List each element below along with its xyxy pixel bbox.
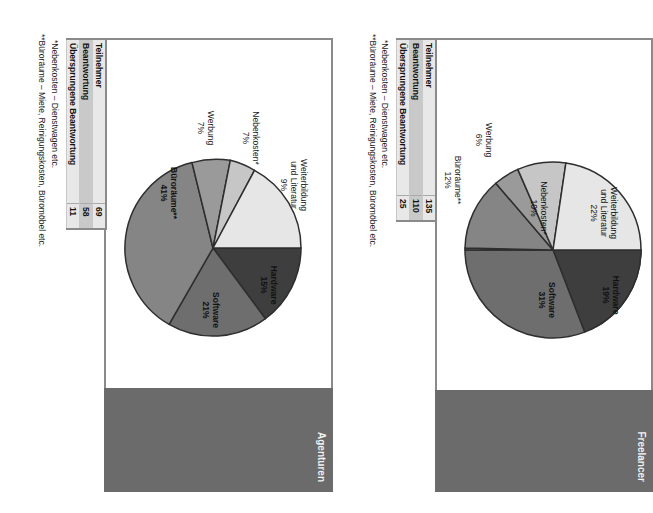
label-hardware: Hardware 19% bbox=[601, 270, 621, 320]
label-nebenkosten: Nebenkosten* 7% bbox=[241, 108, 261, 168]
label-nebenkosten: Nebenkosten* 10% bbox=[529, 178, 549, 238]
label-werbung: Werbung 7% bbox=[196, 108, 216, 148]
table-row: Übersprungene Beantwortung 25 bbox=[397, 40, 410, 220]
freelancer-footnote-1: *Nebenkosten – Dienstwagen etc. bbox=[380, 40, 390, 168]
stat-value: 11 bbox=[67, 204, 80, 229]
agenturen-footnote-1: *Nebenkosten – Dienstwagen etc. bbox=[50, 40, 60, 168]
stat-value: 25 bbox=[397, 196, 410, 221]
stat-value: 69 bbox=[93, 204, 106, 229]
table-row: Teilnehmer 135 bbox=[423, 40, 436, 220]
stat-value: 110 bbox=[410, 196, 423, 221]
table-row: Beantwortung 58 bbox=[80, 40, 93, 228]
label-werbung: Werbung 6% bbox=[474, 120, 494, 160]
label-software: Software 31% bbox=[537, 275, 557, 325]
stat-label: Übersprungene Beantwortung bbox=[397, 40, 410, 196]
agenturen-footnote-2: **Büroräume – Miete, Reinigungskosten, B… bbox=[37, 34, 47, 247]
table-row: Beantwortung 110 bbox=[410, 40, 423, 220]
freelancer-stats-table: Teilnehmer 135 Beantwortung 110 Überspru… bbox=[396, 38, 437, 222]
stat-label: Teilnehmer bbox=[93, 40, 106, 204]
label-weiterbildung: Weiterbildung und Literatur 9% bbox=[279, 150, 309, 220]
stat-value: 135 bbox=[423, 196, 436, 221]
stat-label: Teilnehmer bbox=[423, 40, 436, 196]
stat-value: 58 bbox=[80, 204, 93, 229]
stat-label: Beantwortung bbox=[410, 40, 423, 196]
label-weiterbildung: Weiterbildung und Literatur 22% bbox=[589, 178, 619, 248]
label-hardware: Hardware 15% bbox=[259, 260, 279, 310]
table-row: Teilnehmer 69 bbox=[93, 40, 106, 228]
label-bueroraeume: Büroräume** 12% bbox=[443, 150, 463, 210]
table-row: Übersprungene Beantwortung 11 bbox=[67, 40, 80, 228]
stat-label: Beantwortung bbox=[80, 40, 93, 204]
stat-label: Übersprungene Beantwortung bbox=[67, 40, 80, 204]
label-software: Software 21% bbox=[201, 285, 221, 335]
freelancer-footnote-2: **Büroräume – Miete, Reinigungskosten, B… bbox=[368, 34, 378, 247]
label-bueroraeume: Büroräume** 41% bbox=[159, 163, 179, 223]
agenturen-stats-table: Teilnehmer 69 Beantwortung 58 Übersprung… bbox=[66, 38, 107, 230]
